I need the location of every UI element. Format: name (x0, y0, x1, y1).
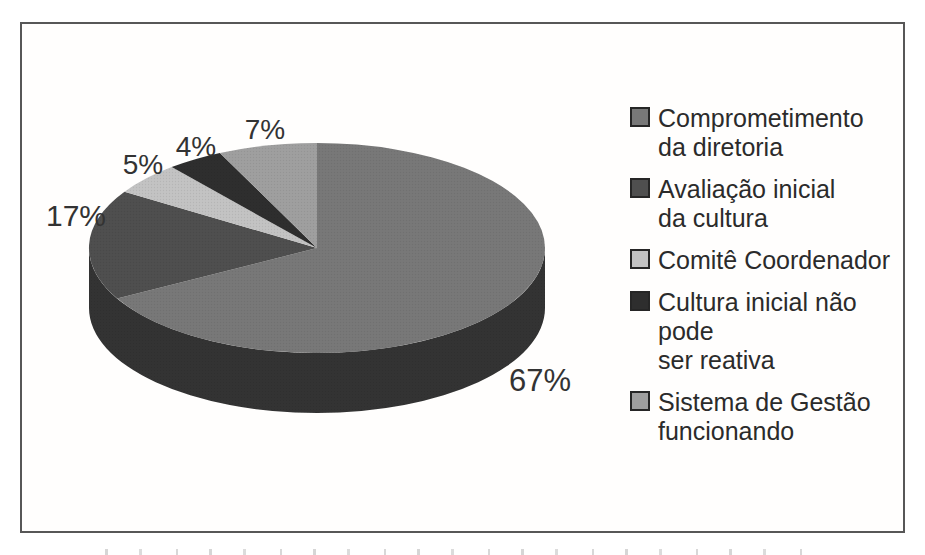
legend-label-avaliacao: Avaliação inicial da cultura (658, 175, 835, 233)
pie-label-67: 67% (509, 363, 571, 398)
legend-label-line: da cultura (658, 204, 835, 233)
legend-item-avaliacao: Avaliação inicial da cultura (630, 175, 900, 233)
pie-label-7: 7% (245, 114, 285, 145)
legend: Comprometimento da diretoria Avaliação i… (630, 104, 900, 446)
legend-item-comprometimento: Comprometimento da diretoria (630, 104, 900, 162)
figure-scanned-pie-chart: 67% 17% 5% 4% 7% Comprometimento da dire… (0, 0, 925, 555)
legend-label-comprometimento: Comprometimento da diretoria (658, 104, 864, 162)
pie-label-5: 5% (123, 149, 163, 180)
legend-label-line: Comitê Coordenador (658, 246, 890, 275)
legend-swatch-avaliacao (630, 178, 650, 198)
legend-label-line: ser reativa (658, 346, 900, 375)
legend-item-cultura: Cultura inicial não pode ser reativa (630, 288, 900, 375)
pie-label-17: 17% (46, 199, 106, 232)
legend-swatch-cultura (630, 291, 650, 311)
legend-label-line: Sistema de Gestão (658, 388, 871, 417)
legend-label-line: funcionando (658, 417, 871, 446)
legend-label-line: Comprometimento (658, 104, 864, 133)
legend-swatch-comprometimento (630, 107, 650, 127)
legend-label-cultura: Cultura inicial não pode ser reativa (658, 288, 900, 375)
legend-item-comite: Comitê Coordenador (630, 246, 900, 275)
legend-label-line: da diretoria (658, 133, 864, 162)
legend-label-sistema: Sistema de Gestão funcionando (658, 388, 871, 446)
legend-swatch-sistema (630, 391, 650, 411)
legend-item-sistema: Sistema de Gestão funcionando (630, 388, 900, 446)
legend-swatch-comite (630, 249, 650, 269)
pie-label-4: 4% (176, 131, 216, 162)
legend-label-comite: Comitê Coordenador (658, 246, 890, 275)
legend-label-line: Cultura inicial não pode (658, 288, 900, 346)
cut-off-caption-fragments (105, 549, 820, 555)
legend-label-line: Avaliação inicial (658, 175, 835, 204)
